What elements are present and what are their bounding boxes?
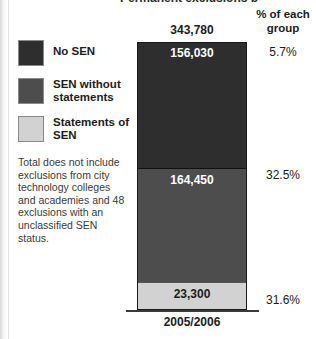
legend-swatch-no-sen [18,40,44,66]
bar-total-label: 343,780 [137,23,247,37]
chart-footnote: Total does not include exclusions from c… [18,156,130,244]
bar-segment-value-sen-without-statements: 164,450 [138,173,246,187]
legend-label-no-sen: No SEN [53,40,95,58]
chart-title-text: Permanent exclusions by SEN status [120,0,260,2]
legend-label-sen-without-statements: SEN without statements [53,78,138,104]
legend-item-statements-of-sen: Statements of SEN [18,116,138,142]
bar-segment-value-statements-of-sen: 23,300 [138,287,246,301]
legend-swatch-statements-of-sen [18,116,44,142]
x-axis-category-label: 2005/2006 [127,315,257,329]
chart-title-clipped: Permanent exclusions by SEN status [120,0,260,2]
bar-segment-statements-of-sen: 23,300 [138,283,246,309]
percent-column-header: % of each group [252,8,314,35]
percent-value-sen-without-statements: 32.5% [252,168,314,182]
percent-value-statements-of-sen: 31.6% [252,293,314,307]
legend-item-no-sen: No SEN [18,40,138,66]
percent-value-no-sen: 5.7% [252,45,314,59]
chart-baseline [126,310,259,312]
legend-swatch-sen-without-statements [18,78,44,104]
bar-segment-no-sen: 156,030 [138,43,246,169]
chart-container: Permanent exclusions by SEN status No SE… [0,0,316,339]
bar-segment-sen-without-statements: 164,450 [138,169,246,283]
legend-item-sen-without-statements: SEN without statements [18,78,138,104]
bar-segment-value-no-sen: 156,030 [138,46,246,60]
legend-label-statements-of-sen: Statements of SEN [53,116,138,142]
scan-edge-artifact [0,0,7,339]
chart-legend: No SEN SEN without statements Statements… [18,40,138,154]
stacked-bar-2005-2006: 156,030 164,450 23,300 [137,42,247,310]
scan-line-artifact [8,0,9,339]
